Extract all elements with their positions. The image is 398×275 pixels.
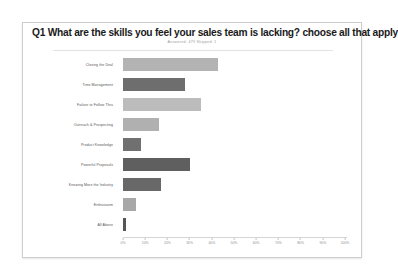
chart-bar-row: Time Management <box>23 75 361 95</box>
tick-label: 50% <box>231 241 238 245</box>
x-axis-tick: 0% <box>121 238 126 245</box>
tick-label: 60% <box>253 241 260 245</box>
survey-result-card: Q1 What are the skills you feel your sal… <box>22 22 362 258</box>
tick-label: 40% <box>208 241 215 245</box>
x-axis-tick: 20% <box>164 238 171 245</box>
chart-bar <box>123 178 161 191</box>
category-label: All Above <box>57 215 113 235</box>
chart-bar-row: Closing the Deal <box>23 55 361 75</box>
category-label: Failure to Follow Thru <box>57 95 113 115</box>
x-axis-tick: 60% <box>253 238 260 245</box>
chart-bar-row: Product Knowledge <box>23 135 361 155</box>
x-axis-tick: 100% <box>341 238 350 245</box>
tick-label: 30% <box>186 241 193 245</box>
tick-label: 80% <box>297 241 304 245</box>
tick-mark <box>123 238 124 240</box>
x-axis-tick: 40% <box>208 238 215 245</box>
tick-mark <box>300 238 301 240</box>
category-label: Time Management <box>57 75 113 95</box>
question-number: Q1 <box>32 27 45 38</box>
category-label: Knowing More the Industry <box>57 175 113 195</box>
chart-bar <box>123 58 218 71</box>
chart-bar <box>123 78 185 91</box>
tick-label: 100% <box>341 241 350 245</box>
x-axis-tick: 90% <box>319 238 326 245</box>
tick-label: 20% <box>164 241 171 245</box>
page-title: Q1 What are the skills you feel your sal… <box>32 27 355 38</box>
tick-mark <box>345 238 346 240</box>
x-axis-tick: 80% <box>297 238 304 245</box>
chart-bar <box>123 98 201 111</box>
category-label: Product Knowledge <box>57 135 113 155</box>
tick-mark <box>145 238 146 240</box>
category-label: Outreach & Prospecting <box>57 115 113 135</box>
x-axis-tick: 70% <box>275 238 282 245</box>
header-divider <box>53 50 333 51</box>
category-label: Enthusiasm <box>57 195 113 215</box>
tick-mark <box>167 238 168 240</box>
tick-mark <box>233 238 234 240</box>
tick-label: 10% <box>142 241 149 245</box>
chart-bar <box>123 198 136 211</box>
tick-mark <box>256 238 257 240</box>
tick-mark <box>322 238 323 240</box>
category-label: Powerful Proposals <box>57 155 113 175</box>
tick-label: 70% <box>275 241 282 245</box>
tick-mark <box>189 238 190 240</box>
x-axis-tick: 30% <box>186 238 193 245</box>
x-axis-tick: 10% <box>142 238 149 245</box>
x-axis: 0%10%20%30%40%50%60%70%80%90%100% <box>123 238 351 252</box>
chart-bar-row: Failure to Follow Thru <box>23 95 361 115</box>
chart-bar <box>123 218 126 231</box>
chart-bar <box>123 158 190 171</box>
chart-bar-row: Powerful Proposals <box>23 155 361 175</box>
chart-bar <box>123 118 159 131</box>
chart-bar <box>123 138 141 151</box>
bar-chart: Closing the DealTime ManagementFailure t… <box>23 53 361 257</box>
chart-bar-row: Knowing More the Industry <box>23 175 361 195</box>
question-title: What are the skills you feel your sales … <box>48 27 398 38</box>
x-axis-tick: 50% <box>231 238 238 245</box>
tick-mark <box>211 238 212 240</box>
tick-mark <box>278 238 279 240</box>
tick-label: 90% <box>319 241 326 245</box>
chart-bar-row: All Above <box>23 215 361 235</box>
chart-bar-row: Outreach & Prospecting <box>23 115 361 135</box>
tick-label: 0% <box>121 241 126 245</box>
response-summary: Answered: 479 Skipped: 1 <box>23 40 361 44</box>
chart-bar-row: Enthusiasm <box>23 195 361 215</box>
category-label: Closing the Deal <box>57 55 113 75</box>
